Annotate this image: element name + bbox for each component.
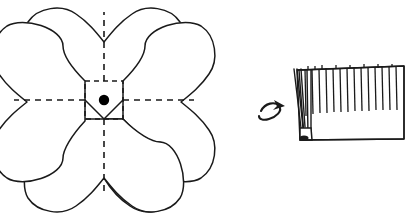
arrow-head-icon [273, 100, 285, 110]
folded-fringe-strip [294, 64, 404, 141]
curved-roll-arrow [259, 100, 285, 120]
pleat-fold [307, 70, 308, 136]
craft-instruction-figure: Flower petal template and folded fringe … [0, 0, 411, 213]
center-dot [99, 95, 109, 105]
five-petal-flower-template [0, 8, 215, 212]
figure-canvas: Flower petal template and folded fringe … [0, 0, 411, 213]
